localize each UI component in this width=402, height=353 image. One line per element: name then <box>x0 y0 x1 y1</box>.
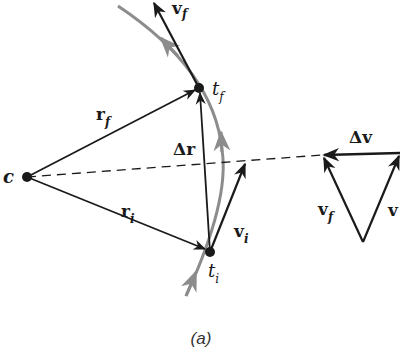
circular-motion-diagram: c tf ti rf ri Δr vf vi Δv vf v (a) <box>0 0 402 353</box>
label-triangle-v: v <box>387 200 399 220</box>
label-t-f: tf <box>212 78 226 104</box>
vector-triangle <box>324 153 400 242</box>
path-direction-arrow-upper <box>161 38 178 56</box>
triangle-v-f <box>324 158 363 242</box>
vector-delta-r <box>200 93 210 252</box>
label-v-f: vf <box>171 0 189 21</box>
label-t-i: ti <box>208 260 219 286</box>
label-delta-r: Δr <box>173 139 196 159</box>
path-direction-arrow-lower <box>186 272 196 296</box>
figure-caption: (a) <box>191 329 212 348</box>
point-t-i <box>205 247 215 257</box>
label-delta-v: Δv <box>349 127 373 147</box>
point-t-f <box>194 83 204 93</box>
label-r-i: ri <box>121 201 135 226</box>
label-triangle-v-f: vf <box>317 199 335 224</box>
label-v-i: vi <box>233 221 249 246</box>
label-c: c <box>3 166 14 187</box>
vector-r-f <box>27 90 195 177</box>
label-r-f: rf <box>96 104 112 129</box>
center-point <box>22 172 32 182</box>
triangle-v-i <box>363 156 399 242</box>
path-direction-arrow-middle <box>221 132 222 152</box>
vector-r-i <box>27 177 205 249</box>
triangle-delta-v <box>324 153 400 155</box>
